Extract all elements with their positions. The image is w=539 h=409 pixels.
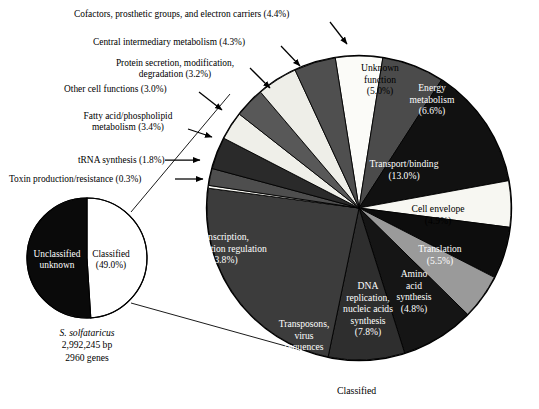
callout-label-line: Fatty acid/phospholipid xyxy=(62,111,194,122)
gene-count: 2960 genes xyxy=(17,352,157,364)
organism-name: S. solfataricus xyxy=(17,327,157,339)
callout-label-line: degradation (3.2%) xyxy=(88,69,262,80)
small-pie-label-line: unknown xyxy=(27,260,87,271)
pie-chart-figure: Unknownfunction(5.0%)Energymetabolism(6.… xyxy=(0,0,539,409)
small-pie-label-value: (49.0%) xyxy=(81,260,141,271)
callout-label-fatty-acid-metabolism: Fatty acid/phospholipidmetabolism (3.4%) xyxy=(62,111,194,134)
callout-label-toxin-production: Toxin production/resistance (0.3%) xyxy=(9,174,141,185)
callout-label-line: metabolism (3.4%) xyxy=(62,122,194,133)
small-pie-label-line: Unclassified xyxy=(27,249,87,260)
callout-label-trna-synthesis: tRNA synthesis (1.8%) xyxy=(78,155,165,166)
callout-label-other-cell-functions: Other cell functions (3.0%) xyxy=(64,84,167,95)
callout-label-protein-secretion: Protein secretion, modification,degradat… xyxy=(88,58,262,81)
callout-label-cofactors: Cofactors, prosthetic groups, and electr… xyxy=(74,9,289,20)
small-pie-label-line: Classified xyxy=(81,249,141,260)
large-pie-chart xyxy=(207,56,512,361)
small-pie-label-unclassified: Unclassifiedunknown xyxy=(27,249,87,272)
small-pie-label-classified: Classified(49.0%) xyxy=(81,249,141,272)
genome-size: 2,992,245 bp xyxy=(17,339,157,351)
callout-arrow-cofactors xyxy=(330,22,347,44)
callout-arrow-central-intermediary-metabolism xyxy=(281,46,300,66)
small-pie-caption: S. solfataricus2,992,245 bp2960 genes xyxy=(17,327,157,364)
callout-label-line: Protein secretion, modification, xyxy=(88,58,262,69)
classified-caption: Classified xyxy=(337,385,376,396)
callout-label-central-intermediary-metabolism: Central intermediary metabolism (4.3%) xyxy=(93,37,245,48)
callout-arrow-other-cell-functions xyxy=(199,92,222,110)
